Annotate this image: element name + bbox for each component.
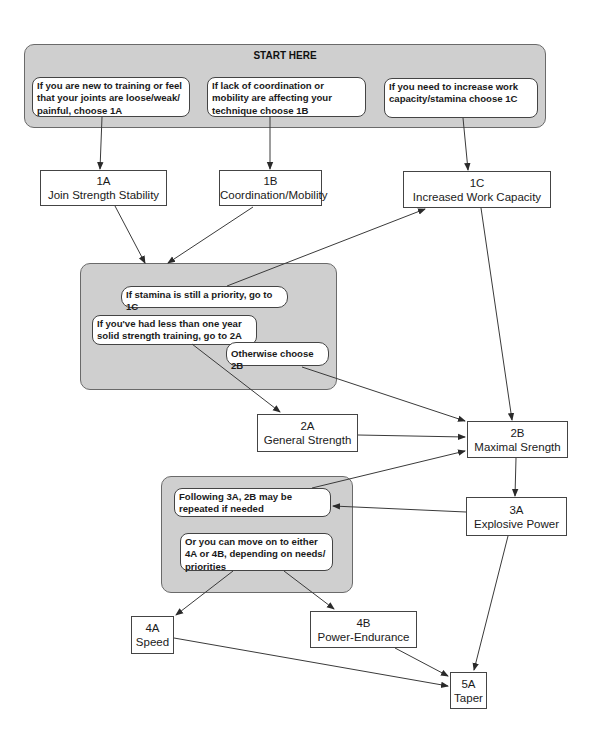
arrow-3a-to-5a [474, 536, 508, 670]
arrow-4b-to-5a [395, 648, 448, 676]
arrow-otherwise-to-2b [302, 367, 465, 421]
arrow-less-than-year-to-2a [192, 344, 280, 412]
arrow-4a-to-5a [174, 638, 448, 686]
connector-arrows [0, 0, 596, 748]
arrow-move-on-to-4b [284, 571, 334, 609]
arrow-stamina-to-1c [227, 209, 425, 286]
arrow-1c-to-2b [481, 208, 512, 420]
arrow-3a-to-repeat-note [333, 506, 466, 512]
arrow-note-to-1c [463, 118, 468, 170]
arrow-1b-to-phase1 [168, 207, 253, 263]
arrow-note-to-1a [100, 117, 102, 169]
arrow-move-on-to-4a [176, 571, 233, 615]
arrow-2b-to-3a [515, 458, 516, 496]
arrow-2a-to-2b [358, 435, 465, 437]
arrow-1a-to-phase1 [115, 206, 145, 263]
arrow-repeat-to-2b [312, 451, 465, 488]
